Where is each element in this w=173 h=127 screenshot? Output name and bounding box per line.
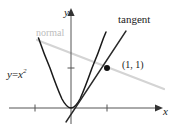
curve-equation-exponent: 2 [23, 67, 27, 75]
point-coordinates-label: (1, 1) [122, 60, 144, 70]
x-axis-label: x [163, 106, 168, 117]
curve-equation-label: y=x2 [7, 68, 27, 80]
tangency-point-marker [104, 65, 110, 71]
normal-label: normal [36, 28, 64, 38]
x-axis-arrow [155, 104, 163, 111]
y-axis-label: y [64, 7, 69, 18]
tangent-label: tangent [118, 14, 150, 25]
figure-container: tangent normal (1, 1) y x y=x2 [0, 0, 173, 127]
